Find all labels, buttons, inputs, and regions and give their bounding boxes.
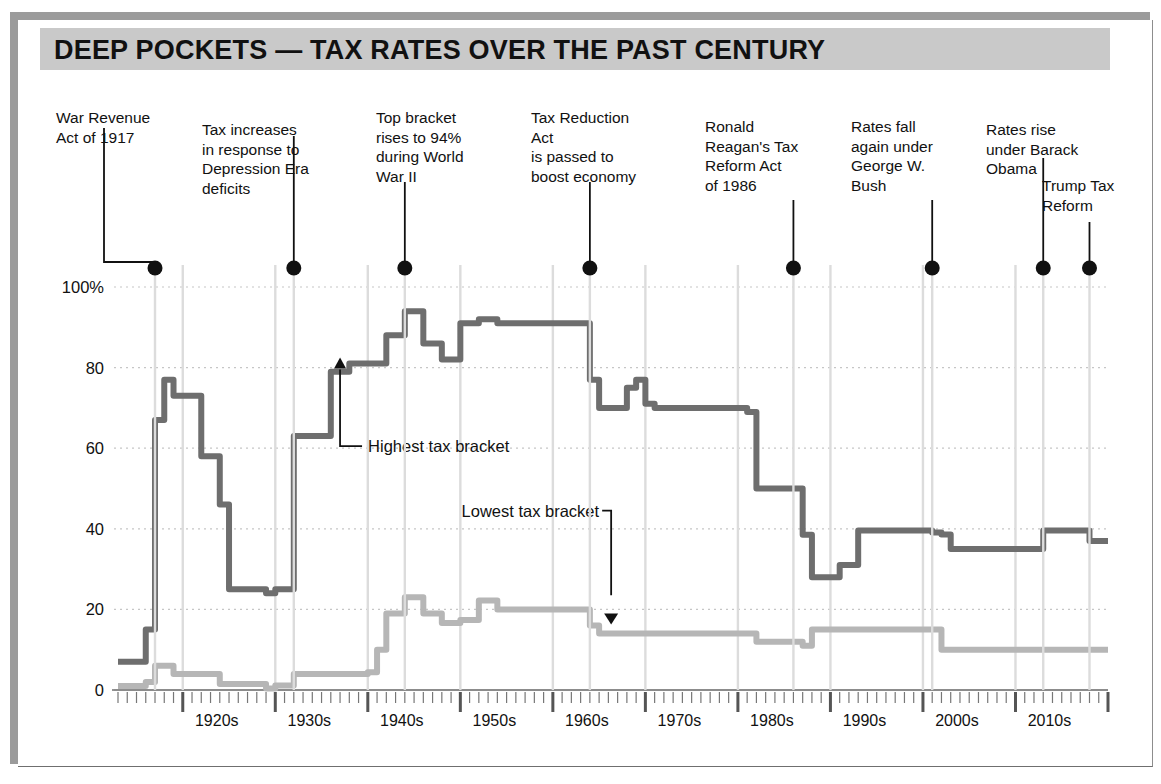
x-tick-label-1980s: 1980s <box>750 712 794 729</box>
x-tick-label-1940s: 1940s <box>380 712 424 729</box>
y-tick-label-80: 80 <box>86 359 104 377</box>
lowest-bracket-label: Lowest tax bracket <box>462 502 600 520</box>
highest-callout-arrowhead <box>334 358 346 369</box>
y-tick-label-100: 100% <box>62 278 105 296</box>
annotation-dot-depression-era[interactable] <box>286 261 301 276</box>
annotation-leader-war-revenue-act <box>104 128 155 262</box>
highest-callout-leader <box>340 370 362 447</box>
x-tick-label-2000s: 2000s <box>935 712 979 729</box>
x-tick-label-2010s: 2010s <box>1028 712 1072 729</box>
y-tick-label-20: 20 <box>86 600 104 618</box>
annotation-dot-george-w-bush[interactable] <box>925 261 940 276</box>
y-tick-label-60: 60 <box>86 439 104 457</box>
y-tick-label-0: 0 <box>95 681 104 699</box>
x-tick-label-1970s: 1970s <box>658 712 702 729</box>
annotation-dot-barack-obama[interactable] <box>1036 261 1051 276</box>
series-line-lowest-tax-bracket <box>118 597 1108 688</box>
y-tick-label-40: 40 <box>86 520 104 538</box>
chart-page: DEEP POCKETS — TAX RATES OVER THE PAST C… <box>0 0 1161 784</box>
tax-rate-line-chart: 020406080100%1920s1930s1940s1950s1960s19… <box>0 0 1161 784</box>
lowest-callout-leader <box>602 511 611 596</box>
annotation-dot-trump-tax-reform[interactable] <box>1082 261 1097 276</box>
x-tick-label-1950s: 1950s <box>473 712 517 729</box>
x-tick-label-1960s: 1960s <box>565 712 609 729</box>
x-tick-label-1930s: 1930s <box>287 712 331 729</box>
x-tick-label-1990s: 1990s <box>843 712 887 729</box>
lowest-callout-arrowhead <box>604 613 618 624</box>
annotation-dot-world-war-two[interactable] <box>397 261 412 276</box>
annotation-dot-war-revenue-act[interactable] <box>148 261 163 276</box>
annotation-dot-tax-reduction-act[interactable] <box>582 261 597 276</box>
annotation-dot-reagan-tax-reform[interactable] <box>786 261 801 276</box>
highest-bracket-label: Highest tax bracket <box>368 437 510 455</box>
x-tick-label-1920s: 1920s <box>195 712 239 729</box>
